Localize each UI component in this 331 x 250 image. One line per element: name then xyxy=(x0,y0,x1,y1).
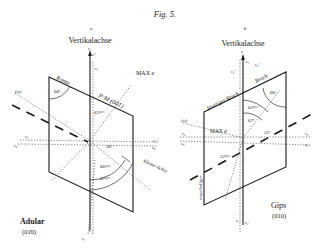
panel-b-c-label: c xyxy=(241,49,244,54)
panel-a-angle-64: 64° xyxy=(54,89,61,94)
panel-a-c-prime-label: c' xyxy=(92,52,96,57)
panel-b-mineral-name: Gips xyxy=(271,201,286,210)
panel-b-eps1-bottom: ε₁ xyxy=(236,218,240,223)
panel-b-eps2-right: ε₂ xyxy=(305,131,309,136)
panel-a-letter: a xyxy=(90,26,93,31)
panel-b-eps2-left: ε₂ xyxy=(182,131,186,136)
panel-b-angle-635: 63½° xyxy=(248,105,259,110)
panel-b-angle-23: 23° xyxy=(264,130,271,135)
panel-a-angle-26: 26° xyxy=(106,144,113,149)
panel-b-muscheliger-label: muscheliger xyxy=(198,176,203,200)
panel-b-angle-66: 66° xyxy=(270,90,277,95)
panel-b-axis-arrow-icon xyxy=(241,54,245,60)
panel-b-annotation: MAX e xyxy=(210,128,227,134)
panel-b-axis-label: Vertikalachse xyxy=(221,39,265,48)
panel-a-axis-label: Vertikalachse xyxy=(68,36,112,45)
panel-b-eps3-left: ε₃' xyxy=(181,141,186,146)
panel-a: a Vertikalachse c c' Kante P/M (001) Kle… xyxy=(12,26,169,241)
panel-a-kleine-achse-label: Kleine Achse xyxy=(142,158,169,174)
panel-a-omega-label: (ω) xyxy=(15,89,22,94)
figure-title: Fig. 5. xyxy=(153,9,176,19)
figure: Fig. 5. a Vertikalachse c c' Kante P/ xyxy=(0,0,331,250)
panel-a-angle-665: 66½° xyxy=(100,164,111,169)
panel-a-angle-635: 63½° xyxy=(94,110,105,115)
panel-a-annotation: MAX e xyxy=(136,70,155,76)
panel-b-angle-525: 52½° xyxy=(220,154,231,159)
panel-b-letter: b xyxy=(244,26,247,31)
panel-a-face-index: (01̄0) xyxy=(22,228,36,236)
panel-b-eps1-left-top: ε₁' xyxy=(231,69,236,74)
panel-b-eps1-top: ε₁ xyxy=(246,59,250,64)
panel-b-eps2-top: ε₂' xyxy=(255,62,260,67)
panel-a-eps2-left: ε₂ xyxy=(25,134,29,139)
panel-a-angle-675: 67½° xyxy=(100,176,111,181)
panel-a-eps1-bottom2: ε₁ xyxy=(82,236,86,241)
panel-a-mineral-name: Adular xyxy=(20,217,45,226)
panel-a-eps3-right: ε₃ xyxy=(152,145,156,150)
panel-b-angle-67: 67° xyxy=(248,118,255,123)
panel-a-eps1-top: ε₁ xyxy=(95,66,99,71)
panel-a-c-label: c xyxy=(88,46,91,51)
panel-b-eps1p-bottom: ε₁' xyxy=(245,220,250,225)
panel-a-crystal-plate xyxy=(49,77,133,212)
panel-a-eps1-bottom: ε₁' xyxy=(89,228,94,233)
panel-b-omega-label: (ω) xyxy=(181,118,188,123)
panel-b: b Vertikalachse c faseriger Bruch Bruch … xyxy=(180,26,312,232)
panel-b-face-index: (010) xyxy=(272,212,286,220)
panel-b-eps3-right: ε₃ xyxy=(305,142,309,147)
